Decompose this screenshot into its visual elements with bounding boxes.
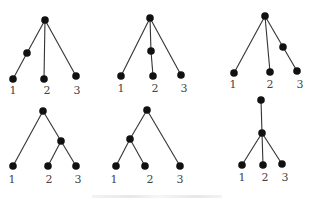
leaf-node: [9, 75, 17, 83]
leaf-label: 3: [75, 173, 82, 186]
leaf-node: [278, 160, 286, 168]
leaf-node: [266, 68, 274, 76]
leaf-label: 2: [46, 173, 53, 186]
tree-edge: [130, 110, 147, 139]
leaf-label: 1: [111, 173, 118, 186]
tree-edge: [262, 133, 263, 165]
tree-edge: [43, 111, 61, 141]
tree-edge: [150, 18, 181, 75]
root-node: [39, 107, 47, 115]
tree-edge: [13, 53, 27, 79]
leaf-node: [259, 161, 267, 169]
leaf-node: [117, 72, 125, 80]
tree-edge: [262, 133, 282, 164]
tree-4: 123: [9, 107, 82, 186]
tree-edge: [45, 20, 76, 76]
tree-edge: [121, 18, 150, 76]
leaf-label: 3: [297, 78, 304, 91]
leaf-label: 1: [230, 78, 237, 91]
tree-edge: [48, 141, 61, 166]
tree-edge: [27, 20, 45, 53]
leaf-label: 2: [147, 173, 154, 186]
tree-6: 123: [238, 96, 288, 184]
tree-edge: [242, 133, 262, 165]
internal-node: [258, 129, 266, 137]
leaf-label: 3: [282, 171, 289, 184]
leaf-label: 2: [267, 78, 274, 91]
tree-edge: [130, 139, 145, 166]
leaf-node: [141, 162, 149, 170]
internal-node: [126, 135, 134, 143]
tree-1: 123: [9, 16, 80, 97]
tree-edge: [147, 110, 180, 166]
leaf-label: 1: [118, 82, 125, 95]
tree-edge: [61, 141, 76, 166]
leaf-label: 2: [44, 84, 51, 97]
tree-edge: [261, 100, 262, 133]
leaf-label: 3: [74, 84, 81, 97]
tree-2: 123: [117, 14, 187, 95]
leaf-label: 2: [152, 82, 159, 95]
leaf-node: [149, 72, 157, 80]
leaf-node: [44, 162, 52, 170]
leaf-label: 3: [181, 82, 188, 95]
tree-edge: [283, 47, 297, 71]
root-node: [261, 12, 269, 20]
root-node: [143, 106, 151, 114]
leaf-node: [112, 162, 120, 170]
figure-caption: [92, 195, 222, 198]
leaf-node: [176, 162, 184, 170]
internal-node: [279, 43, 287, 51]
root-node: [41, 16, 49, 24]
leaf-node: [9, 162, 17, 170]
tree-topologies-diagram: 123123123123123123: [0, 0, 314, 202]
leaf-node: [72, 72, 80, 80]
leaf-node: [40, 75, 48, 83]
internal-node: [147, 47, 155, 55]
tree-edge: [234, 16, 265, 73]
tree-edge: [150, 18, 151, 51]
internal-node: [57, 137, 65, 145]
leaf-node: [293, 67, 301, 75]
root-node: [257, 96, 265, 104]
tree-5: 123: [111, 106, 184, 186]
tree-3: 123: [230, 12, 304, 91]
leaf-label: 1: [239, 171, 246, 184]
leaf-node: [177, 71, 185, 79]
leaf-node: [238, 161, 246, 169]
leaf-label: 2: [262, 171, 269, 184]
leaf-node: [72, 162, 80, 170]
root-node: [146, 14, 154, 22]
leaf-label: 3: [177, 173, 184, 186]
internal-node: [23, 49, 31, 57]
tree-edge: [44, 20, 45, 79]
leaf-label: 1: [10, 84, 17, 97]
leaf-node: [230, 69, 238, 77]
tree-edge: [13, 111, 43, 166]
tree-edge: [116, 139, 130, 166]
leaf-label: 1: [9, 173, 16, 186]
